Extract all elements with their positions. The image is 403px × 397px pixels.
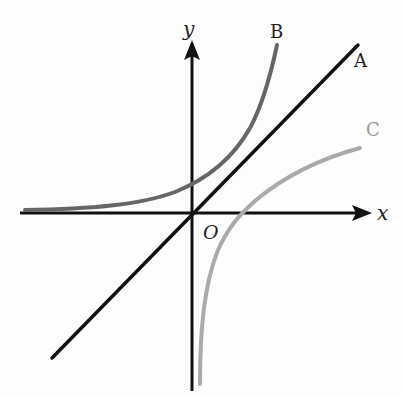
curve-c-label: C (366, 119, 380, 140)
curve-b-label: B (270, 21, 283, 42)
line-a-label: A (353, 50, 368, 71)
function-graph: y x O B A C (0, 0, 403, 397)
y-axis-label: y (182, 17, 195, 41)
graph-canvas: y x O B A C (0, 0, 403, 397)
x-axis-label: x (377, 201, 388, 225)
origin-label: O (203, 221, 219, 243)
curve-b (25, 45, 277, 210)
